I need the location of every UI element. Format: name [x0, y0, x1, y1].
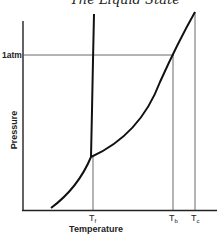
y-axis-title: Pressure	[9, 111, 19, 150]
phase-diagram-chart: 1atm Tf Tb Tc Temperature Pressure	[0, 0, 219, 240]
tf-label: Tf	[89, 213, 97, 224]
tc-label: Tc	[191, 213, 200, 224]
phase-diagram-figure: The Liquid State 1atm Tf Tb Tc Temperatu…	[0, 0, 219, 240]
melting-curve	[91, 14, 94, 157]
x-axis-title: Temperature	[69, 224, 123, 234]
sublimation-curve	[51, 157, 91, 208]
one-atm-label: 1atm	[2, 50, 22, 60]
tb-label: Tb	[169, 213, 179, 224]
vaporization-curve	[91, 12, 195, 157]
page-header-title: The Liquid State	[60, 0, 190, 7]
